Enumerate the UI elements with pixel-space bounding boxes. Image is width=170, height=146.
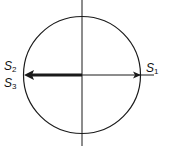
label-s1: S1 xyxy=(146,62,158,76)
label-s2: S2 xyxy=(4,60,16,74)
diagram-canvas xyxy=(0,0,170,146)
label-s3: S3 xyxy=(4,77,16,91)
